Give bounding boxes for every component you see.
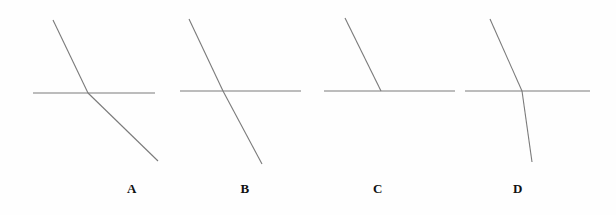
panel-a-label: A — [120, 181, 144, 197]
panel-a-group — [33, 20, 160, 163]
panel-d-group — [465, 19, 590, 165]
panel-b-group — [180, 19, 301, 166]
panel-d-label: D — [506, 181, 530, 197]
panel-c-incident-ray — [345, 18, 381, 91]
panel-c-group — [324, 18, 458, 91]
panel-d-incident-ray — [490, 19, 522, 91]
panel-a-incident-ray — [53, 20, 88, 93]
panel-b-refracted-ray — [223, 91, 262, 164]
refraction-options-figure: A B C D — [0, 0, 616, 215]
panel-a-refracted-ray — [88, 93, 158, 161]
panel-d-refracted-ray — [522, 91, 532, 162]
panel-b-label: B — [233, 181, 257, 197]
panel-c-label: C — [366, 181, 390, 197]
panel-b-incident-ray — [189, 19, 223, 91]
